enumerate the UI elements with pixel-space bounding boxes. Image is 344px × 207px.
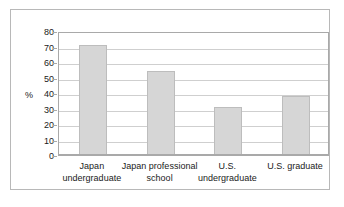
x-tick-label-line: undergraduate [189,172,267,184]
y-tick-label: 30 [20,106,54,115]
y-tick-mark [53,110,57,111]
chart-frame: % 80706050403020100 JapanundergraduateJa… [10,9,330,190]
y-tick-mark [53,156,57,157]
bar-chart-figure: % 80706050403020100 JapanundergraduateJa… [0,0,344,207]
bar [79,45,107,155]
bar [214,107,242,155]
y-tick-label: 60 [20,59,54,68]
x-tick-label-line: U.S. graduate [256,160,334,172]
bar [147,71,175,155]
plot-area [58,32,329,156]
x-tick-label-line: Japan [53,160,131,172]
x-tick-label: Japan professionalschool [121,160,199,184]
y-tick-mark [53,32,57,33]
x-axis-line [59,154,328,155]
y-tick-label: 20 [20,121,54,130]
x-tick-label-line: U.S. [189,160,267,172]
y-tick-label: 10 [20,137,54,146]
y-tick-mark [53,94,57,95]
x-tick-label: U.S. graduate [256,160,334,172]
y-tick-mark [53,63,57,64]
bar [282,96,310,155]
y-axis-tick-labels: 80706050403020100 [16,32,54,156]
x-tick-label: U.S.undergraduate [189,160,267,184]
y-tick-label: 70 [20,44,54,53]
y-tick-mark [53,48,57,49]
y-tick-mark [53,125,57,126]
y-tick-label: 50 [20,75,54,84]
y-tick-mark [53,79,57,80]
x-tick-label-line: undergraduate [53,172,131,184]
y-tick-label: 80 [20,28,54,37]
y-tick-label: 0 [20,152,54,161]
x-tick-label: Japanundergraduate [53,160,131,184]
x-axis-category-labels: JapanundergraduateJapan professionalscho… [58,160,329,194]
x-tick-label-line: school [121,172,199,184]
x-tick-label-line: Japan professional [121,160,199,172]
y-tick-label: 40 [20,90,54,99]
y-tick-mark [53,141,57,142]
